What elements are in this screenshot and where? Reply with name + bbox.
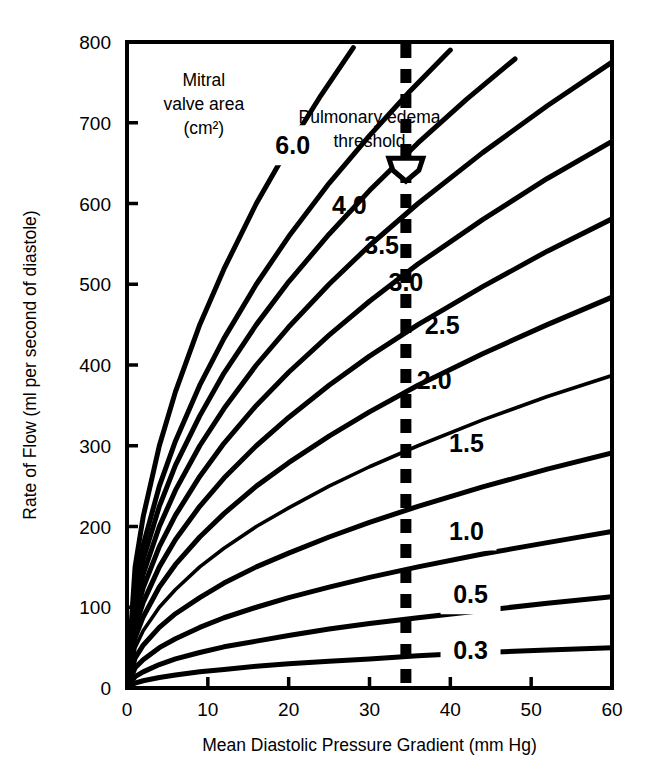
y-tick-label: 200 [79, 517, 111, 538]
curve-label-4-0: 4.0 [332, 191, 367, 219]
legend-title: Mitralvalve area(cm²) [163, 70, 244, 138]
curve-label-2-0: 2.0 [417, 366, 452, 394]
valve-area-curve [127, 62, 612, 688]
x-tick-label: 40 [440, 699, 461, 720]
legend-title-line: (cm²) [183, 118, 224, 138]
curve-label-0-3: 0.3 [453, 636, 488, 664]
curve-label-3-5: 3.5 [364, 231, 399, 259]
x-tick-label: 20 [278, 699, 299, 720]
x-axis-title: Mean Diastolic Pressure Gradient (mm Hg) [202, 735, 537, 755]
threshold-label-line: threshold [334, 131, 406, 151]
x-tick-label: 10 [197, 699, 218, 720]
x-tick-label: 0 [122, 699, 133, 720]
curve-label-1-0: 1.0 [449, 517, 484, 545]
y-tick-label: 0 [100, 678, 111, 699]
valve-area-curve [127, 219, 612, 688]
x-tick-label: 50 [521, 699, 542, 720]
x-tick-label: 30 [359, 699, 380, 720]
x-tick-label: 60 [601, 699, 622, 720]
chart-canvas: 01020304050600100200300400500600700800 6… [0, 0, 648, 777]
valve-area-curve [127, 531, 612, 688]
curve-label-6-0: 6.0 [275, 131, 310, 159]
y-tick-label: 400 [79, 355, 111, 376]
y-tick-label: 600 [79, 194, 111, 215]
y-tick-label: 800 [79, 32, 111, 53]
curve-label-0-5: 0.5 [453, 580, 488, 608]
curve-label-2-5: 2.5 [425, 311, 460, 339]
threshold-pointer-icon [389, 158, 423, 181]
curve-label-3-0: 3.0 [388, 268, 423, 296]
legend-title-line: valve area [163, 94, 244, 114]
threshold-label-line: Pulmonary edema [298, 107, 440, 127]
y-tick-label: 500 [79, 274, 111, 295]
curve-label-1-5: 1.5 [449, 429, 484, 457]
legend-title-line: Mitral [182, 70, 225, 90]
y-tick-label: 300 [79, 436, 111, 457]
y-tick-label: 100 [79, 597, 111, 618]
y-tick-label: 700 [79, 113, 111, 134]
valve-area-curve [127, 376, 612, 689]
y-axis-title: Rate of Flow (ml per second of diastole) [20, 210, 40, 519]
mitral-valve-nomogram-figure: 01020304050600100200300400500600700800 6… [0, 0, 648, 777]
